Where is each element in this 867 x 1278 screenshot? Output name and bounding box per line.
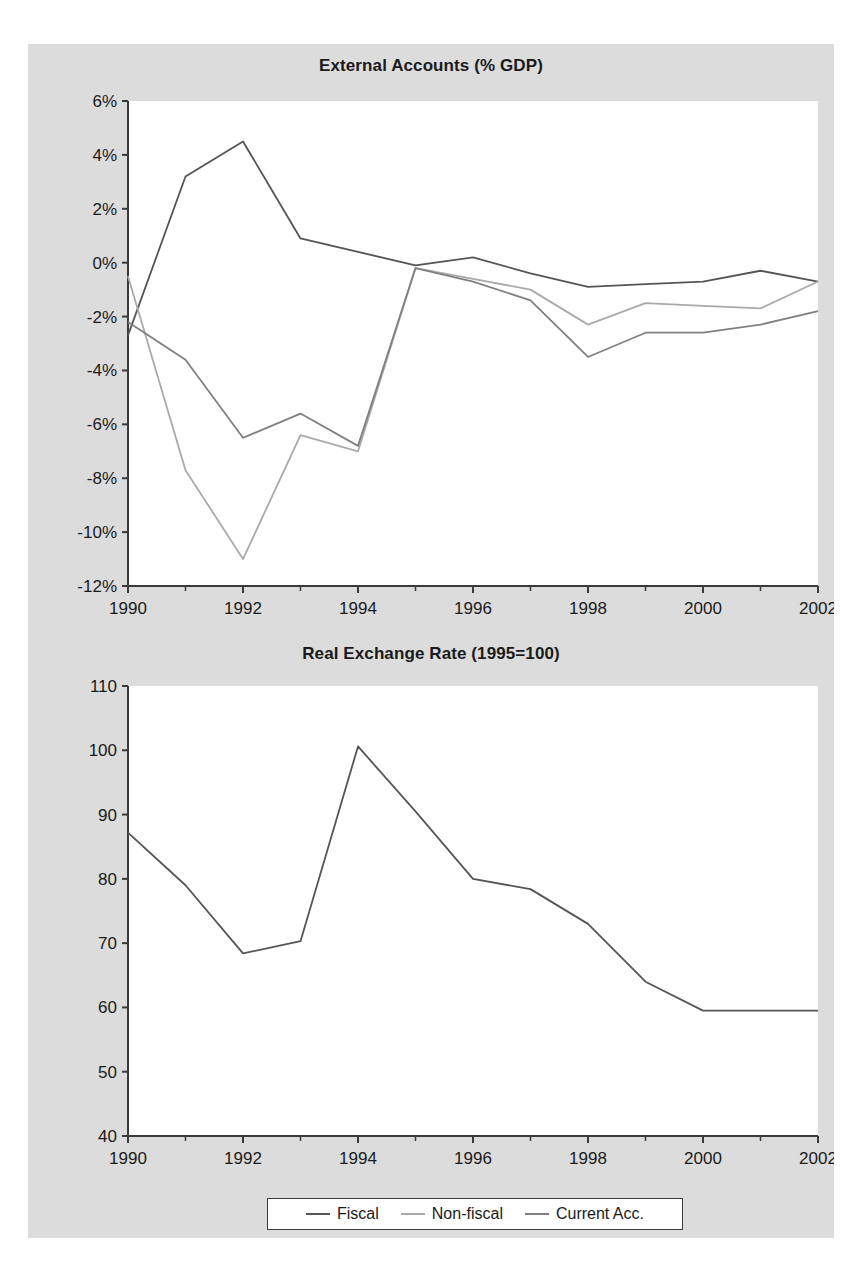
- legend-label-current-acc: Current Acc.: [556, 1205, 644, 1223]
- x-tick-label: 1994: [339, 1149, 377, 1168]
- legend-line-icon-non-fiscal: [401, 1213, 425, 1215]
- legend-entry-current-acc: Current Acc.: [525, 1205, 644, 1223]
- chart-external-accounts: External Accounts (% GDP) 6%4%2%0%-2%-4%…: [28, 56, 834, 616]
- x-tick-label: 1990: [109, 1149, 147, 1168]
- y-tick-label: 6%: [92, 92, 117, 111]
- y-tick-label: -6%: [87, 415, 117, 434]
- chart-legend: Fiscal Non-fiscal Current Acc.: [267, 1198, 683, 1230]
- y-tick-label: -12%: [77, 577, 117, 596]
- y-tick-label: -4%: [87, 361, 117, 380]
- plot-background: [128, 686, 818, 1136]
- x-tick-label: 2000: [684, 599, 722, 616]
- x-tick-label: 1990: [109, 599, 147, 616]
- legend-entry-fiscal: Fiscal: [306, 1205, 379, 1223]
- plot-area-real-exchange-rate: 1101009080706050401990199219941996199820…: [28, 644, 834, 1174]
- y-tick-label: 40: [98, 1127, 117, 1146]
- y-tick-label: 90: [98, 806, 117, 825]
- y-tick-label: 80: [98, 870, 117, 889]
- legend-line-icon-current-acc: [525, 1213, 549, 1215]
- y-tick-label: 60: [98, 998, 117, 1017]
- y-tick-label: 0%: [92, 254, 117, 273]
- legend-line-icon-fiscal: [306, 1213, 330, 1215]
- x-tick-label: 1996: [454, 599, 492, 616]
- y-tick-label: 110: [90, 677, 117, 696]
- figure-panel: External Accounts (% GDP) 6%4%2%0%-2%-4%…: [28, 44, 834, 1238]
- legend-label-fiscal: Fiscal: [337, 1205, 379, 1223]
- x-tick-label: 1992: [224, 1149, 262, 1168]
- chart-real-exchange-rate: Real Exchange Rate (1995=100) 1101009080…: [28, 644, 834, 1174]
- legend-entry-non-fiscal: Non-fiscal: [401, 1205, 503, 1223]
- plot-background: [128, 101, 818, 586]
- x-tick-label: 2000: [684, 1149, 722, 1168]
- y-tick-label: 100: [89, 741, 117, 760]
- x-tick-label: 1996: [454, 1149, 492, 1168]
- y-tick-label: 4%: [92, 146, 117, 165]
- x-tick-label: 1998: [569, 599, 607, 616]
- y-tick-label: 2%: [92, 200, 117, 219]
- x-tick-label: 1998: [569, 1149, 607, 1168]
- x-tick-label: 1992: [224, 599, 262, 616]
- y-tick-label: -8%: [87, 469, 117, 488]
- y-tick-label: 70: [98, 934, 117, 953]
- x-tick-label: 1994: [339, 599, 377, 616]
- y-tick-label: -10%: [77, 523, 117, 542]
- x-tick-label: 2002: [799, 1149, 834, 1168]
- y-tick-label: -2%: [87, 308, 117, 327]
- x-tick-label: 2002: [799, 599, 834, 616]
- legend-label-non-fiscal: Non-fiscal: [432, 1205, 503, 1223]
- plot-area-external-accounts: 6%4%2%0%-2%-4%-6%-8%-10%-12%199019921994…: [28, 56, 834, 616]
- y-tick-label: 50: [98, 1063, 117, 1082]
